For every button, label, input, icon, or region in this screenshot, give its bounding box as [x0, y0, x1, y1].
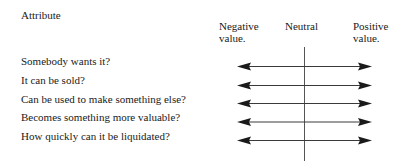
left-arrowhead-icon: [237, 137, 251, 145]
left-arrowhead-icon: [237, 118, 251, 126]
right-arrowhead-icon: [358, 100, 372, 108]
left-arrowhead-icon: [237, 100, 251, 108]
right-arrowhead-icon: [358, 63, 372, 71]
left-arrowhead-icon: [237, 82, 251, 90]
right-arrowhead-icon: [358, 137, 372, 145]
value-scale-diagram: [0, 0, 404, 164]
left-arrowhead-icon: [237, 63, 251, 71]
right-arrowhead-icon: [358, 118, 372, 126]
right-arrowhead-icon: [358, 82, 372, 90]
